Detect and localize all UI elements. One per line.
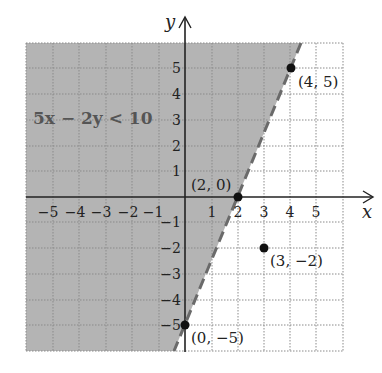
- x-tick: 5: [312, 204, 321, 220]
- point-label: (3, −2): [270, 252, 323, 270]
- x-tick: 3: [260, 204, 269, 220]
- x-tick: 2: [234, 204, 243, 220]
- y-tick: −1: [160, 214, 181, 230]
- x-tick: −4: [65, 204, 86, 220]
- y-axis-label: y: [164, 11, 176, 32]
- point-label: (0, −5): [191, 329, 244, 347]
- y-tick: 3: [172, 112, 181, 128]
- y-tick: 5: [172, 60, 181, 76]
- point-2-0: [234, 193, 243, 202]
- y-tick: 4: [172, 86, 181, 102]
- y-tick: −2: [160, 240, 181, 256]
- x-tick: −5: [38, 204, 59, 220]
- y-tick: −3: [160, 266, 181, 282]
- point-0-neg5: [181, 321, 190, 330]
- y-tick: −4: [160, 292, 181, 308]
- point-3-neg2: [260, 244, 269, 253]
- x-tick: −2: [118, 204, 139, 220]
- x-tick: −3: [91, 204, 112, 220]
- point-label: (4, 5): [298, 73, 338, 91]
- inequality-label: 5x − 2y < 10: [33, 108, 153, 128]
- y-tick: 2: [172, 138, 181, 154]
- point-4-5: [287, 64, 296, 73]
- y-tick: −5: [160, 317, 181, 333]
- x-tick: 4: [286, 204, 295, 220]
- point-label: (2, 0): [191, 176, 231, 194]
- y-tick: 1: [172, 163, 181, 179]
- coordinate-graph: x y −5 −4 −3 −2 −1 1 2 3 4 5 5 4 3 2 1 −…: [0, 0, 382, 373]
- x-axis-label: x: [362, 201, 372, 222]
- x-tick: 1: [208, 204, 217, 220]
